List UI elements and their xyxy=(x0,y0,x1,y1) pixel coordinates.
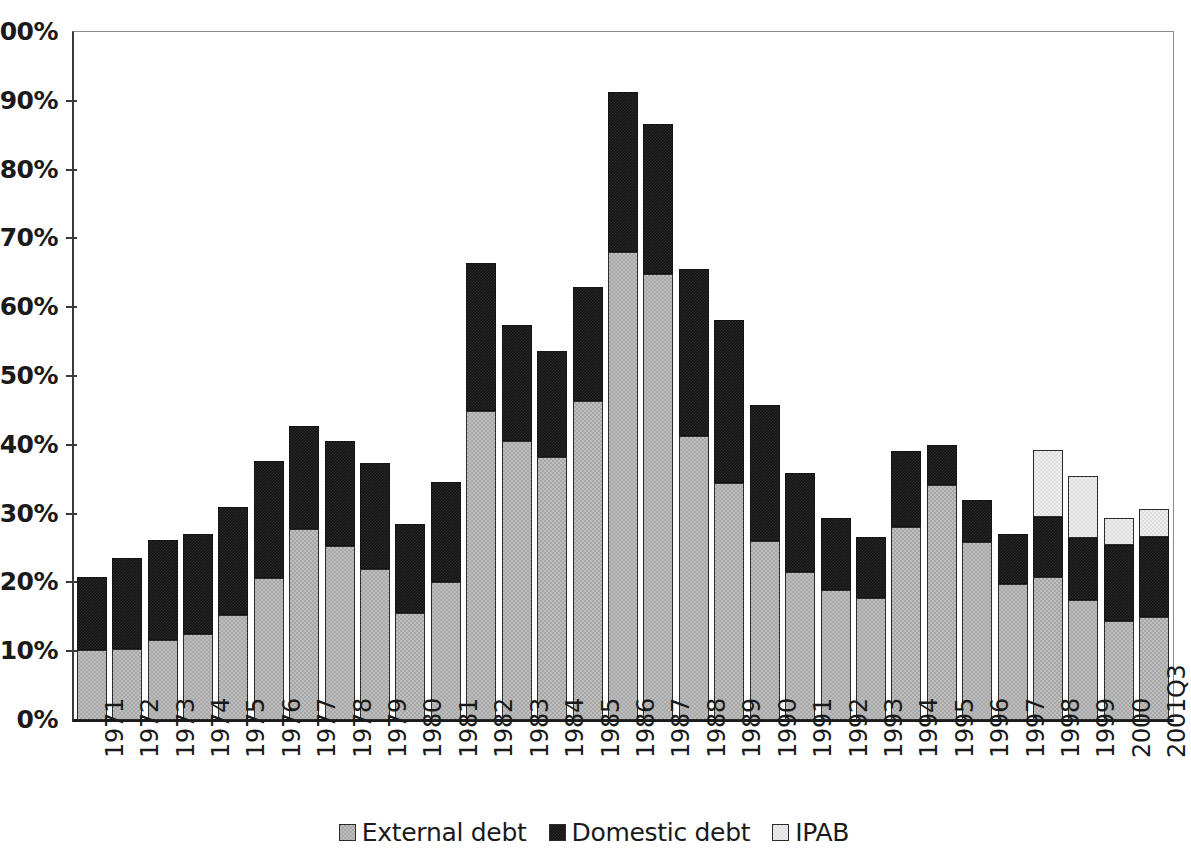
bar-group[interactable] xyxy=(218,32,248,720)
x-tick-label: 1982 xyxy=(490,728,518,758)
bar-segment-domestic-debt[interactable] xyxy=(891,451,921,527)
bar-segment-domestic-debt[interactable] xyxy=(360,463,390,569)
bar-group[interactable] xyxy=(750,32,780,720)
x-tick-label: 1971 xyxy=(101,728,129,758)
y-tick-label: 10% xyxy=(0,636,58,665)
legend-item-domestic-debt[interactable]: Domestic debt xyxy=(549,818,751,847)
bar-segment-external-debt[interactable] xyxy=(289,529,319,720)
bar-group[interactable] xyxy=(395,32,425,720)
bar-group[interactable] xyxy=(537,32,567,720)
bar-segment-domestic-debt[interactable] xyxy=(502,325,532,441)
bar-segment-domestic-debt[interactable] xyxy=(325,441,355,546)
bar-group[interactable] xyxy=(998,32,1028,720)
bar-segment-external-debt[interactable] xyxy=(573,401,603,720)
ipab-swatch xyxy=(772,824,789,841)
bar-segment-ipab[interactable] xyxy=(1139,509,1169,537)
bar-segment-domestic-debt[interactable] xyxy=(1033,517,1063,577)
bar-group[interactable] xyxy=(1033,32,1063,720)
bar-segment-external-debt[interactable] xyxy=(891,527,921,720)
bar-segment-domestic-debt[interactable] xyxy=(962,500,992,542)
bar-segment-domestic-debt[interactable] xyxy=(573,287,603,401)
y-tick-label: 90% xyxy=(0,85,58,114)
x-tick-label: 1996 xyxy=(986,728,1014,758)
external-debt-swatch xyxy=(339,824,356,841)
bar-group[interactable] xyxy=(77,32,107,720)
x-tick-label: 1981 xyxy=(455,728,483,758)
bar-segment-external-debt[interactable] xyxy=(502,441,532,720)
y-tick-label: 100% xyxy=(0,17,58,46)
bar-segment-external-debt[interactable] xyxy=(750,541,780,720)
bar-segment-domestic-debt[interactable] xyxy=(856,537,886,598)
bar-segment-ipab[interactable] xyxy=(1104,518,1134,546)
bar-group[interactable] xyxy=(927,32,957,720)
bar-segment-domestic-debt[interactable] xyxy=(714,320,744,482)
x-tick-label: 1983 xyxy=(526,728,554,758)
bar-segment-domestic-debt[interactable] xyxy=(218,507,248,615)
bar-segment-external-debt[interactable] xyxy=(927,485,957,720)
bar-segment-domestic-debt[interactable] xyxy=(537,351,567,457)
x-tick-label: 1987 xyxy=(667,728,695,758)
y-tick-label: 0% xyxy=(17,705,58,734)
plot-area xyxy=(72,31,1174,722)
bar-group[interactable] xyxy=(148,32,178,720)
bar-segment-ipab[interactable] xyxy=(1068,476,1098,537)
bar-group[interactable] xyxy=(431,32,461,720)
bar-group[interactable] xyxy=(821,32,851,720)
bar-group[interactable] xyxy=(360,32,390,720)
bar-segment-external-debt[interactable] xyxy=(714,483,744,720)
bar-segment-ipab[interactable] xyxy=(1033,450,1063,517)
bar-segment-external-debt[interactable] xyxy=(537,457,567,721)
bar-segment-external-debt[interactable] xyxy=(608,252,638,720)
bar-group[interactable] xyxy=(1139,32,1169,720)
bar-segment-domestic-debt[interactable] xyxy=(183,534,213,634)
bar-group[interactable] xyxy=(962,32,992,720)
bar-segment-domestic-debt[interactable] xyxy=(998,534,1028,585)
bar-group[interactable] xyxy=(643,32,673,720)
bar-segment-domestic-debt[interactable] xyxy=(785,473,815,572)
bar-segment-domestic-debt[interactable] xyxy=(1068,538,1098,601)
bar-segment-domestic-debt[interactable] xyxy=(112,558,142,650)
bar-segment-domestic-debt[interactable] xyxy=(289,426,319,529)
bar-segment-domestic-debt[interactable] xyxy=(1139,537,1169,617)
x-tick-label: 2000 xyxy=(1128,728,1156,758)
y-tick-label: 80% xyxy=(0,154,58,183)
bar-segment-domestic-debt[interactable] xyxy=(1104,545,1134,621)
bar-group[interactable] xyxy=(856,32,886,720)
x-tick-label: 1978 xyxy=(349,728,377,758)
bar-segment-domestic-debt[interactable] xyxy=(148,540,178,639)
bar-segment-external-debt[interactable] xyxy=(643,274,673,721)
bar-segment-domestic-debt[interactable] xyxy=(927,445,957,486)
bar-group[interactable] xyxy=(254,32,284,720)
legend-item-ipab[interactable]: IPAB xyxy=(772,818,849,847)
bar-group[interactable] xyxy=(466,32,496,720)
bar-segment-domestic-debt[interactable] xyxy=(608,92,638,252)
bar-segment-domestic-debt[interactable] xyxy=(821,518,851,590)
bar-segment-domestic-debt[interactable] xyxy=(643,124,673,273)
bar-group[interactable] xyxy=(679,32,709,720)
bar-segment-domestic-debt[interactable] xyxy=(77,577,107,650)
bar-group[interactable] xyxy=(502,32,532,720)
bar-group[interactable] xyxy=(1104,32,1134,720)
bar-segment-domestic-debt[interactable] xyxy=(431,482,461,582)
bar-segment-external-debt[interactable] xyxy=(679,436,709,720)
bar-group[interactable] xyxy=(325,32,355,720)
bar-segment-domestic-debt[interactable] xyxy=(466,263,496,412)
bar-segment-domestic-debt[interactable] xyxy=(750,405,780,541)
y-tick-label: 50% xyxy=(0,361,58,390)
bar-group[interactable] xyxy=(1068,32,1098,720)
bar-segment-external-debt[interactable] xyxy=(325,546,355,720)
bar-segment-external-debt[interactable] xyxy=(466,411,496,720)
bar-group[interactable] xyxy=(183,32,213,720)
bar-group[interactable] xyxy=(714,32,744,720)
bar-group[interactable] xyxy=(891,32,921,720)
legend-item-external-debt[interactable]: External debt xyxy=(339,818,527,847)
bar-segment-external-debt[interactable] xyxy=(962,542,992,720)
bar-segment-domestic-debt[interactable] xyxy=(254,461,284,579)
bar-group[interactable] xyxy=(289,32,319,720)
bar-group[interactable] xyxy=(608,32,638,720)
bar-segment-domestic-debt[interactable] xyxy=(679,269,709,436)
bar-group[interactable] xyxy=(573,32,603,720)
bar-group[interactable] xyxy=(785,32,815,720)
bar-group[interactable] xyxy=(112,32,142,720)
bar-segment-domestic-debt[interactable] xyxy=(395,524,425,613)
